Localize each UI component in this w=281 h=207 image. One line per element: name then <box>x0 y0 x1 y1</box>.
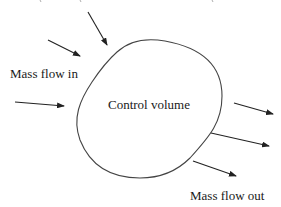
inflow-arrows <box>15 12 107 106</box>
mass-flow-out-label: Mass flow out <box>190 189 264 202</box>
mass-flow-in-label: Mass flow in <box>10 67 78 80</box>
outflow-arrows <box>193 103 273 176</box>
outflow-arrow <box>211 133 269 146</box>
inflow-arrow <box>48 40 80 56</box>
cropped-caption-fragment <box>40 0 213 2</box>
control-volume-label: Control volume <box>108 98 190 111</box>
outflow-arrow <box>193 161 236 176</box>
outflow-arrow <box>234 103 273 114</box>
inflow-arrow <box>88 12 107 45</box>
inflow-arrow <box>15 102 64 106</box>
